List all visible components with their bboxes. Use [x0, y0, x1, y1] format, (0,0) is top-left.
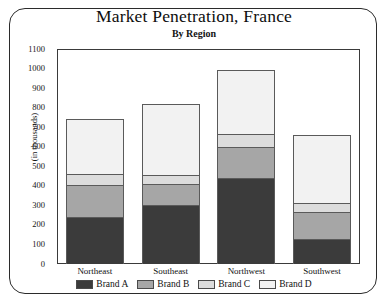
bar-segment — [217, 147, 275, 178]
bar-segment — [142, 205, 200, 264]
bar-segment — [142, 104, 200, 175]
legend-swatch-icon — [259, 280, 276, 289]
legend-swatch-icon — [137, 280, 154, 289]
x-tick-label: Northwest — [209, 266, 285, 276]
bar-stack — [293, 135, 351, 264]
bar-segment — [66, 185, 124, 217]
bar-segment — [66, 217, 124, 264]
y-tick-label: 400 — [13, 181, 45, 190]
y-tick-label: 800 — [13, 103, 45, 112]
bar-segment — [66, 119, 124, 174]
y-tick-label: 600 — [13, 142, 45, 151]
chart-title: Market Penetration, France — [0, 6, 388, 27]
legend-item[interactable]: Brand C — [198, 279, 250, 289]
x-tick-label: Southeast — [133, 266, 209, 276]
legend-item[interactable]: Brand D — [259, 279, 311, 289]
x-tick-label: Southwest — [284, 266, 360, 276]
chart-subtitle: By Region — [0, 28, 388, 39]
bar-segment — [142, 184, 200, 206]
bar-segment — [142, 175, 200, 184]
y-tick-label: 900 — [13, 84, 45, 93]
legend-item[interactable]: Brand B — [137, 279, 189, 289]
legend-label: Brand D — [279, 279, 311, 289]
y-tick-label: 1100 — [13, 45, 45, 54]
legend-swatch-icon — [76, 280, 93, 289]
legend-label: Brand B — [157, 279, 189, 289]
y-tick-label: 300 — [13, 201, 45, 210]
y-tick-label: 500 — [13, 162, 45, 171]
bar-segment — [293, 135, 351, 203]
y-axis-tick-labels: 110010009008007006005004003002001000 — [0, 0, 57, 302]
bar-segment — [293, 212, 351, 238]
chart-container: Market Penetration, France By Region (in… — [0, 0, 388, 302]
bar-segment — [217, 178, 275, 264]
y-tick-label: 700 — [13, 123, 45, 132]
y-tick-label: 0 — [13, 260, 45, 269]
chart-legend: Brand ABrand BBrand CBrand D — [0, 279, 388, 289]
legend-item[interactable]: Brand A — [76, 279, 128, 289]
legend-swatch-icon — [198, 280, 215, 289]
y-tick-label: 1000 — [13, 64, 45, 73]
bar-segment — [217, 134, 275, 147]
bar-stack — [66, 119, 124, 264]
bar-segment — [293, 203, 351, 212]
bar-segment — [293, 239, 351, 264]
bar-stack — [217, 70, 275, 264]
bar-stack — [142, 104, 200, 264]
y-tick-label: 100 — [13, 240, 45, 249]
bar-segment — [217, 70, 275, 135]
legend-label: Brand C — [218, 279, 250, 289]
legend-label: Brand A — [96, 279, 128, 289]
x-tick-label: Northeast — [57, 266, 133, 276]
bar-segment — [66, 174, 124, 185]
y-tick-label: 200 — [13, 220, 45, 229]
